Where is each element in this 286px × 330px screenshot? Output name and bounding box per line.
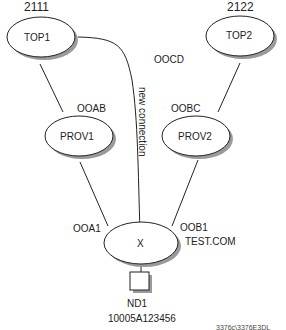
link-oob1-label: OOB1 [180, 222, 208, 233]
top1-label: TOP1 [24, 32, 50, 43]
link-oocd-label: OOCD [154, 54, 184, 65]
link-prov2-x [172, 160, 198, 226]
link-top2-prov2 [218, 63, 240, 112]
nd1-address: 10005A123456 [108, 313, 176, 324]
link-ooa1-label: OOA1 [73, 223, 101, 234]
nd1-label: ND1 [127, 298, 147, 309]
top2-label: TOP2 [226, 30, 252, 41]
figure-id: 3376c\3376E3DL [216, 322, 270, 330]
prov1-label: PROV1 [60, 131, 94, 142]
node-nd1 [130, 272, 149, 290]
diagram-canvas [0, 0, 286, 330]
top2-number: 2122 [227, 2, 254, 13]
link-oobc-label: OOBC [171, 103, 200, 114]
x-domain-label: TEST.COM [185, 236, 236, 247]
new-connection-label: new connection [137, 87, 148, 157]
x-label: X [137, 238, 144, 249]
prov2-label: PROV2 [178, 131, 212, 142]
link-top1-prov1 [40, 64, 63, 112]
top1-number: 2111 [24, 2, 49, 13]
link-ooab-label: OOAB [77, 103, 106, 114]
link-prov1-x [80, 162, 108, 226]
